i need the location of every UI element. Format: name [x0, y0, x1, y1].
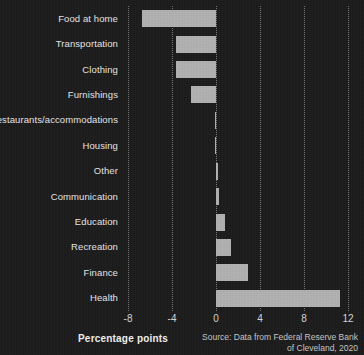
bar-row — [128, 286, 348, 311]
bar-row — [128, 31, 348, 56]
x-tick-label: 4 — [257, 313, 263, 325]
bar — [216, 239, 231, 256]
category-label: Education — [75, 217, 118, 227]
bar — [216, 188, 219, 205]
x-tick-label: 8 — [301, 313, 307, 325]
bar-row — [128, 260, 348, 285]
bar — [176, 61, 216, 78]
bar-row — [128, 235, 348, 260]
category-label: Transportation — [56, 39, 118, 49]
x-tick-label: 0 — [213, 313, 219, 325]
x-tick-label: 12 — [342, 313, 353, 325]
bar — [216, 264, 248, 281]
source-line-2: of Cleveland, 2020 — [158, 343, 358, 354]
x-tick-label: -4 — [168, 313, 177, 325]
x-axis-title: Percentage points — [78, 333, 168, 344]
bar-row — [128, 108, 348, 133]
category-label: Other — [94, 166, 118, 176]
bar — [216, 163, 218, 180]
bar-row — [128, 57, 348, 82]
bar-row — [128, 184, 348, 209]
category-label: Furnishings — [68, 90, 118, 100]
category-label: Health — [90, 293, 118, 303]
category-label: Food at home — [58, 14, 118, 24]
bar — [215, 112, 216, 129]
bar-row — [128, 159, 348, 184]
diverging-bar-chart: Food at homeTransportationClothingFurnis… — [0, 0, 364, 355]
category-label: Housing — [82, 141, 118, 151]
category-label: Restaurants/accommodations — [0, 115, 118, 125]
bar — [216, 290, 340, 307]
gridline-12 — [348, 6, 349, 311]
category-label: Recreation — [71, 242, 118, 252]
category-label: Finance — [84, 268, 119, 278]
x-tick-label: -8 — [124, 313, 133, 325]
category-label: Clothing — [82, 65, 118, 75]
bar — [142, 10, 216, 27]
bar-row — [128, 82, 348, 107]
x-axis-ticks: -8-404812 — [0, 313, 364, 327]
bar-rows — [128, 6, 348, 311]
source-note: Source: Data from Federal Reserve Bank o… — [158, 332, 358, 353]
bar-row — [128, 6, 348, 31]
bar-row — [128, 133, 348, 158]
plot-area — [128, 6, 348, 311]
bar — [176, 36, 216, 53]
bar — [191, 86, 216, 103]
bar — [216, 214, 225, 231]
bar — [215, 137, 216, 154]
category-label: Communication — [51, 192, 118, 202]
category-axis-labels: Food at homeTransportationClothingFurnis… — [0, 6, 124, 311]
bar-row — [128, 209, 348, 234]
source-line-1: Source: Data from Federal Reserve Bank — [158, 332, 358, 343]
